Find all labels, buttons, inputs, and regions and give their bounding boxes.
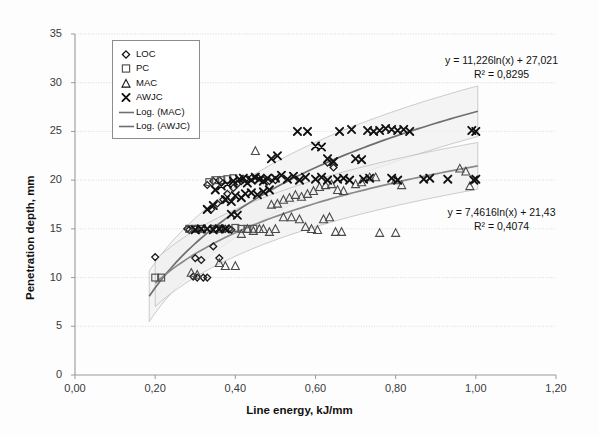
square-marker-icon: [119, 61, 134, 74]
legend-item-label: Log. (AWJC): [136, 120, 190, 131]
line-marker-icon: [119, 105, 134, 118]
y-axis-tick-label: 0: [26, 368, 62, 380]
legend-item-loc[interactable]: LOC: [119, 46, 194, 61]
legend-item-mac[interactable]: MAC: [119, 75, 194, 90]
legend-item-log-awjc[interactable]: Log. (AWJC): [119, 119, 194, 134]
data-point: [392, 229, 400, 237]
data-point: [338, 228, 346, 236]
legend-item-awjc[interactable]: AWJC: [119, 90, 194, 105]
legend-item-label: Log. (MAC): [136, 106, 185, 117]
data-point: [294, 128, 301, 135]
y-axis-tick-label: 25: [26, 124, 62, 136]
legend-item-label: AWJC: [136, 91, 163, 102]
x-axis-tick-label: 0,80: [371, 382, 421, 394]
y-axis-tick-label: 30: [26, 76, 62, 88]
data-point: [231, 262, 239, 270]
x-axis-tick-label: 0,60: [291, 382, 341, 394]
x-axis-tick-label: 0,00: [50, 382, 100, 394]
x-axis-title: Line energy, kJ/mm: [0, 404, 599, 416]
x-axis-tick-label: 0,20: [130, 382, 180, 394]
triangle-marker-icon: [119, 76, 134, 89]
legend-item-label: PC: [136, 62, 149, 73]
trendline-annotation-mac: y = 7,4616ln(x) + 21,43 R² = 0,4074: [414, 205, 589, 233]
data-point: [376, 229, 384, 237]
legend-item-log-mac[interactable]: Log. (MAC): [119, 104, 194, 119]
y-axis-tick-label: 5: [26, 319, 62, 331]
legend-item-label: MAC: [136, 77, 157, 88]
chart-figure: Penetration depth, mm Line energy, kJ/mm…: [0, 0, 599, 436]
y-axis-tick-label: 35: [26, 27, 62, 39]
legend-item-label: LOC: [136, 48, 156, 59]
trendline-annotation-awjc: y = 11,226ln(x) + 27,021 R² = 0,8295: [414, 53, 589, 81]
line-marker-icon: [119, 119, 134, 132]
cross-marker-icon: [119, 90, 134, 103]
y-axis-tick-label: 15: [26, 222, 62, 234]
trendline-equation-awjc: y = 11,226ln(x) + 27,021: [414, 53, 589, 67]
x-axis-tick-label: 1,20: [531, 382, 581, 394]
chart-legend: LOCPCMACAWJCLog. (MAC)Log. (AWJC): [112, 40, 200, 139]
y-axis-tick-label: 10: [26, 271, 62, 283]
trendline-equation-mac: y = 7,4616ln(x) + 21,43: [414, 205, 589, 219]
x-axis-tick-label: 1,00: [451, 382, 501, 394]
data-point: [251, 147, 259, 155]
x-axis-tick-label: 0,40: [210, 382, 260, 394]
diamond-marker-icon: [119, 47, 134, 60]
legend-item-pc[interactable]: PC: [119, 61, 194, 76]
data-point: [304, 128, 311, 135]
trendline-r2-awjc: R² = 0,8295: [414, 67, 589, 81]
y-axis-tick-label: 20: [26, 173, 62, 185]
trendline-r2-mac: R² = 0,4074: [414, 219, 589, 233]
